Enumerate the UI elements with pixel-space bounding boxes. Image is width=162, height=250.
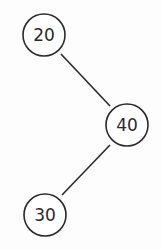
node-label: 40 [116, 115, 138, 135]
node-label: 30 [34, 205, 56, 225]
edge-40-30 [62, 145, 110, 195]
tree-diagram: 20 40 30 [0, 0, 162, 250]
node-30: 30 [24, 194, 66, 236]
node-20: 20 [23, 14, 65, 56]
edge-20-40 [61, 54, 110, 106]
node-40: 40 [106, 104, 148, 146]
node-label: 20 [33, 25, 55, 45]
